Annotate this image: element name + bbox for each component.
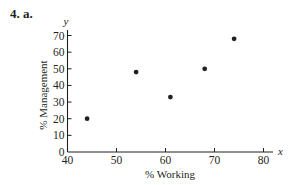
y-tick-label: 70 (53, 30, 65, 42)
x-tick-label: 80 (258, 154, 270, 166)
y-tick-label: 40 (53, 79, 65, 91)
x-tick-label: 50 (111, 154, 123, 166)
y-tick-label: 30 (53, 96, 65, 108)
x-tick-label: 60 (160, 154, 172, 166)
x-tick-label: 40 (62, 154, 74, 166)
y-tick-label: 50 (53, 63, 65, 75)
data-points (85, 36, 237, 121)
y-axis-ticks: 010203040506070 (53, 30, 72, 159)
x-axis-variable: x (277, 145, 283, 157)
axes (68, 30, 274, 152)
y-axis-variable: y (63, 15, 69, 27)
data-point (85, 116, 90, 121)
scatter-chart: 010203040506070 4050607080 % Working % M… (0, 0, 298, 185)
x-axis-label: % Working (145, 168, 195, 180)
x-tick-label: 70 (209, 154, 221, 166)
y-axis-label: % Management (37, 60, 49, 129)
y-tick-label: 10 (53, 129, 65, 141)
y-tick-label: 20 (53, 113, 65, 125)
data-point (202, 66, 207, 71)
data-point (232, 36, 237, 41)
data-point (168, 95, 173, 100)
data-point (134, 70, 139, 75)
x-axis-ticks: 4050607080 (62, 148, 270, 166)
y-tick-label: 60 (53, 46, 65, 58)
